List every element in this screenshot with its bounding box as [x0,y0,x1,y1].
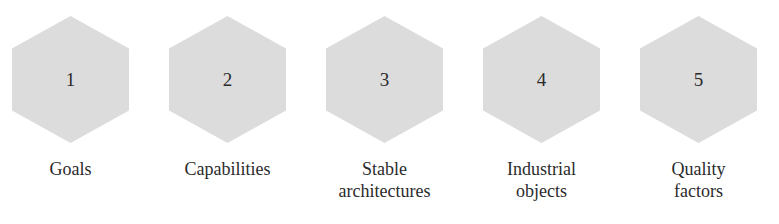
hexagon-node-5: 5 Quality factors [636,14,761,202]
hexagon-shape-4: 4 [481,14,602,145]
hexagon-number-4: 4 [537,70,547,89]
hexagon-shape-3: 3 [324,14,445,145]
hexagon-shape-5: 5 [638,14,759,145]
hexagon-label-3: Stable architectures [311,158,459,202]
hexagon-number-1: 1 [66,70,76,89]
hexagon-label-1: Goals [0,158,145,180]
hexagon-sequence-diagram: 1 Goals 2 Capabilities 3 Stable architec… [0,0,779,224]
hexagon-node-4: 4 Industrial objects [479,14,604,202]
hexagon-node-2: 2 Capabilities [165,14,290,180]
hexagon-number-2: 2 [223,70,233,89]
hexagon-number-3: 3 [380,70,390,89]
hexagon-shape-1: 1 [10,14,131,145]
hexagon-number-5: 5 [694,70,704,89]
hexagon-label-2: Capabilities [154,158,302,180]
hexagon-shape-2: 2 [167,14,288,145]
hexagon-node-3: 3 Stable architectures [322,14,447,202]
hexagon-label-5: Quality factors [625,158,773,202]
hexagon-node-1: 1 Goals [8,14,133,180]
hexagon-label-4: Industrial objects [468,158,616,202]
